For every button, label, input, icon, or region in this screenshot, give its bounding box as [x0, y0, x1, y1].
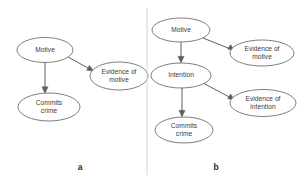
a-edge-motive-to-evidence [68, 57, 94, 71]
node-b-motive [152, 18, 210, 42]
panel-caption-a: a [70, 162, 90, 172]
node-a-motive [17, 38, 73, 63]
b-edge-intention-to-crime [179, 88, 185, 117]
b-edge-intention-to-evidence [203, 83, 235, 100]
node-b-intention [151, 63, 211, 88]
node-a-evidence-of-motive [90, 62, 148, 90]
a-edge-motive-to-crime [42, 63, 48, 94]
b-edge-motive-to-evidence [203, 38, 235, 51]
node-b-evidence-of-intention [230, 90, 296, 117]
panel-b-group [151, 18, 296, 143]
diagram-svg [0, 0, 298, 183]
node-a-commits-crime [18, 93, 80, 121]
node-b-evidence-of-motive [230, 40, 294, 66]
panel-a-group [17, 38, 148, 122]
node-b-commits-crime [155, 117, 213, 143]
panel-caption-b: b [206, 162, 226, 172]
figure-canvas: Motive Evidence of motive Commits crime … [0, 0, 298, 183]
b-edge-motive-to-intention [178, 42, 184, 63]
